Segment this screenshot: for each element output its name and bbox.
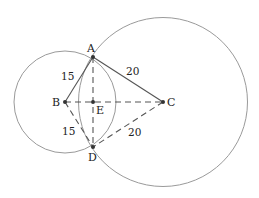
- point-d: [91, 145, 95, 149]
- label-c: C: [167, 96, 175, 109]
- geometry-diagram: A B C D E 15 20 15 20: [0, 0, 259, 198]
- point-e: [91, 100, 95, 104]
- length-label-ac: 20: [126, 65, 139, 77]
- label-d: D: [88, 151, 97, 164]
- length-label-bd: 15: [62, 125, 75, 137]
- segment-ac: [93, 57, 163, 102]
- label-e: E: [96, 104, 104, 117]
- length-label-cd: 20: [128, 126, 141, 138]
- point-b: [63, 100, 67, 104]
- length-label-ab: 15: [61, 70, 74, 82]
- point-a: [91, 55, 95, 59]
- label-b: B: [52, 96, 60, 109]
- label-a: A: [86, 42, 96, 55]
- point-c: [161, 100, 165, 104]
